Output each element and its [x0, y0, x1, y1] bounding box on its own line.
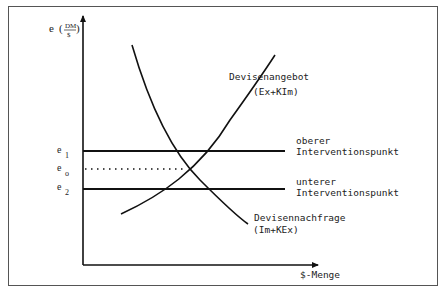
lower-intervention-label-2: Interventionspunkt	[296, 187, 399, 198]
upper-intervention-label-1: oberer	[296, 135, 331, 146]
y-axis-paren-open: (	[59, 22, 63, 35]
y-axis-paren-close: )	[76, 22, 80, 35]
tick-subscript: 2	[65, 188, 69, 197]
upper-intervention-label-2: Interventionspunkt	[296, 146, 399, 157]
lower-intervention-label-1: unterer	[296, 176, 336, 187]
y-axis-symbol: e	[49, 22, 54, 34]
tick-symbol: e	[57, 144, 62, 155]
tick-e1: e 1	[57, 144, 69, 160]
tick-e2: e 2	[57, 181, 69, 197]
supply-curve-formula: (Ex+KIm)	[253, 86, 299, 97]
y-axis-denominator: $	[67, 31, 71, 39]
x-axis-label: $-Menge	[300, 269, 340, 280]
y-axis-label: e ( DM $ )	[49, 22, 80, 39]
demand-curve-label: Devisennachfrage	[254, 212, 346, 223]
tick-symbol: e	[57, 162, 62, 173]
tick-subscript: 1	[65, 151, 69, 160]
exchange-rate-diagram: e ( DM $ ) e 1 e o e 2 Devisenangebot (E…	[0, 0, 446, 298]
demand-curve-formula: (Im+KEx)	[253, 224, 299, 235]
supply-curve-label: Devisenangebot	[229, 71, 309, 82]
tick-symbol: e	[57, 181, 62, 192]
tick-e0: e o	[57, 162, 69, 178]
tick-subscript: o	[65, 169, 69, 178]
